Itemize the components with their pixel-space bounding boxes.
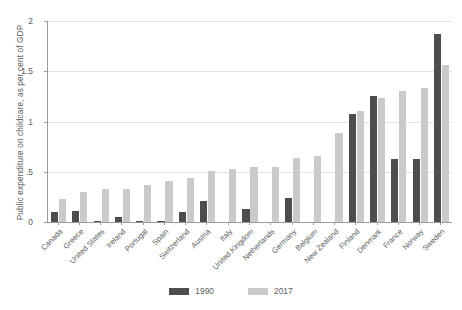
y-tick-label: .5 — [3, 167, 33, 177]
bar — [391, 159, 398, 222]
y-tick-label: 0 — [3, 217, 33, 227]
bar — [293, 158, 300, 222]
x-tick-mark — [419, 222, 420, 225]
bar — [102, 189, 109, 222]
bar — [413, 159, 420, 222]
bar — [229, 169, 236, 222]
bar-group — [303, 21, 324, 222]
bar — [370, 96, 377, 222]
legend-item-2017[interactable]: 2017 — [248, 286, 293, 296]
legend-swatch-2017 — [248, 288, 268, 295]
bar — [80, 192, 87, 222]
bar-group — [69, 21, 90, 222]
x-tick-mark — [100, 222, 101, 225]
x-axis-labels: CanadaGreeceUnited StatesIrelandPortugal… — [47, 222, 451, 284]
legend-label-1990: 1990 — [195, 286, 214, 296]
bar — [357, 111, 364, 222]
bar — [250, 167, 257, 222]
legend: 1990 2017 — [0, 286, 462, 296]
bar — [335, 133, 342, 222]
bar-group — [324, 21, 345, 222]
x-tick-mark — [313, 222, 314, 225]
bar — [123, 189, 130, 222]
x-tick-mark — [440, 222, 441, 225]
bar — [399, 91, 406, 222]
bar-group — [261, 21, 282, 222]
bar-group — [91, 21, 112, 222]
x-tick-mark — [270, 222, 271, 225]
y-tick-label: 2 — [3, 16, 33, 26]
x-tick-mark — [79, 222, 80, 225]
legend-item-1990[interactable]: 1990 — [169, 286, 214, 296]
bar-group — [346, 21, 367, 222]
x-tick-mark — [143, 222, 144, 225]
x-tick-mark — [355, 222, 356, 225]
bar — [59, 199, 66, 222]
bar-group — [388, 21, 409, 222]
bar — [285, 198, 292, 222]
bar — [179, 212, 186, 222]
bar-group — [48, 21, 69, 222]
x-tick-mark — [164, 222, 165, 225]
x-tick-mark — [292, 222, 293, 225]
x-tick-mark — [249, 222, 250, 225]
x-tick-mark — [121, 222, 122, 225]
x-tick-mark — [334, 222, 335, 225]
y-tick-label: 1 — [3, 117, 33, 127]
bar-group — [133, 21, 154, 222]
bar — [187, 178, 194, 222]
plot-area: 0.511.52 — [47, 21, 452, 222]
bar-group — [154, 21, 175, 222]
bar — [72, 211, 79, 222]
bar-group — [409, 21, 430, 222]
bar — [314, 156, 321, 222]
bar-group — [197, 21, 218, 222]
legend-swatch-1990 — [169, 288, 189, 295]
bar — [442, 65, 449, 222]
legend-label-2017: 2017 — [274, 286, 293, 296]
bar-group — [176, 21, 197, 222]
bar — [208, 171, 215, 222]
x-tick-mark — [377, 222, 378, 225]
bars-layer — [48, 21, 452, 222]
bar — [378, 98, 385, 222]
bar — [200, 201, 207, 222]
x-tick-mark — [58, 222, 59, 225]
bar — [421, 88, 428, 222]
bar — [242, 209, 249, 222]
bar-group — [431, 21, 452, 222]
bar — [51, 212, 58, 222]
bar-group — [282, 21, 303, 222]
bar — [144, 185, 151, 222]
bar — [165, 181, 172, 222]
bar — [272, 167, 279, 222]
x-tick-mark — [228, 222, 229, 225]
x-tick-mark — [206, 222, 207, 225]
bar-group — [239, 21, 260, 222]
bar-group — [218, 21, 239, 222]
bar-group — [367, 21, 388, 222]
bar-group — [112, 21, 133, 222]
y-tick-label: 1.5 — [3, 66, 33, 76]
bar-chart: Public expenditure on childcare, as per … — [0, 0, 462, 310]
bar — [434, 34, 441, 222]
x-tick-mark — [398, 222, 399, 225]
x-tick-mark — [185, 222, 186, 225]
bar — [349, 114, 356, 222]
chart-caption — [0, 302, 462, 310]
